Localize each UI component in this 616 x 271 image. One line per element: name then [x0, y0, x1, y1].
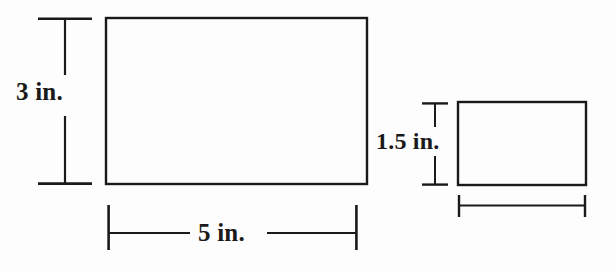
- figure-canvas: [0, 0, 616, 271]
- dimension-label-large-width: 5 in.: [198, 220, 245, 245]
- small-rectangle: [458, 102, 586, 185]
- geometry-figure: 3 in. 5 in. 1.5 in.: [0, 0, 616, 271]
- dimension-label-small-height: 1.5 in.: [376, 129, 439, 153]
- small-width-dimension: [458, 195, 586, 217]
- large-rectangle: [106, 18, 367, 184]
- dimension-label-large-height: 3 in.: [16, 79, 63, 104]
